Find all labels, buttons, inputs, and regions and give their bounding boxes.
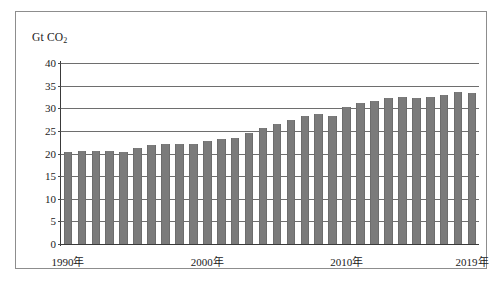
bar [245,133,254,244]
bar [314,114,323,244]
bar [175,144,184,244]
y-axis-tick-mark [58,244,61,245]
y-axis-tick-label: 10 [32,193,56,204]
bar [287,120,296,244]
bar [273,124,282,244]
chart-figure: Gt CO2 0510152025303540 1990年2000年2010年2… [15,11,487,269]
bar [119,152,128,244]
unit-label-text: Gt CO [32,31,63,43]
bar [231,138,240,244]
plot-area: 0510152025303540 1990年2000年2010年2019年 [61,63,479,244]
y-axis-tick-label: 0 [32,239,56,250]
bar [384,98,393,244]
bar [105,151,114,244]
bar [217,139,226,244]
bar [440,95,449,244]
bar [189,144,198,244]
bar [78,151,87,244]
unit-label-subscript: 2 [63,36,67,45]
x-axis-tick-label: 2019年 [456,253,489,269]
bar [412,98,421,244]
y-axis-tick-label: 20 [32,148,56,159]
bar [356,103,365,244]
y-axis-unit-label: Gt CO2 [32,31,68,45]
bar [398,97,407,244]
y-axis-tick-label: 25 [32,125,56,136]
y-axis-tick-label: 30 [32,103,56,114]
y-axis-tick-label: 35 [32,80,56,91]
bar [92,151,101,244]
x-axis-tick-label: 2000年 [191,253,224,269]
bar [147,145,156,244]
bar [64,152,73,244]
y-axis-tick-label: 40 [32,58,56,69]
bar [133,148,142,244]
x-axis-tick-label: 1990年 [51,253,84,269]
bar [328,116,337,244]
bar [161,144,170,244]
bar [426,97,435,244]
gridline [61,244,479,245]
y-axis-tick-label: 5 [32,216,56,227]
bar [468,93,477,244]
bar [454,92,463,244]
bar [370,101,379,244]
bar-series [61,63,479,244]
bar [301,116,310,244]
bar [203,141,212,244]
bar [259,128,268,244]
bar [342,107,351,244]
y-axis-tick-label: 15 [32,171,56,182]
x-axis-tick-label: 2010年 [330,253,363,269]
